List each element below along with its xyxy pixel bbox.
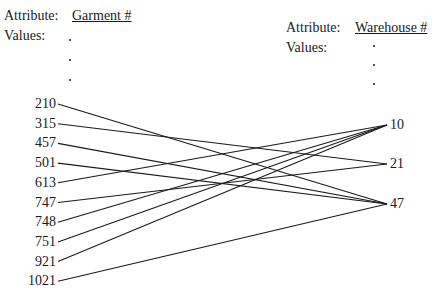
right-value: 21 <box>390 156 404 172</box>
left-value: 748 <box>16 214 56 230</box>
left-value: 210 <box>16 96 56 112</box>
left-value: 747 <box>16 195 56 211</box>
mapping-line-921-to-10 <box>58 125 387 262</box>
left-value: 1021 <box>16 273 56 289</box>
mapping-lines <box>0 0 434 300</box>
right-value: 10 <box>390 117 404 133</box>
mapping-line-315-to-21 <box>58 124 387 164</box>
right-value: 47 <box>390 196 404 212</box>
left-value: 457 <box>16 135 56 151</box>
left-value: 751 <box>16 234 56 250</box>
left-value: 613 <box>16 175 56 191</box>
left-value: 921 <box>16 254 56 270</box>
left-value: 315 <box>16 116 56 132</box>
mapping-line-1021-to-47 <box>58 204 387 281</box>
mapping-line-751-to-10 <box>58 125 387 242</box>
left-value: 501 <box>16 155 56 171</box>
